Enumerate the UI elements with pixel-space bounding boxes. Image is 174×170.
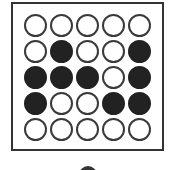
grid-cell bbox=[100, 90, 126, 116]
grid-cell bbox=[126, 116, 152, 142]
partial-circle-icon bbox=[79, 166, 97, 170]
grid-cell bbox=[126, 38, 152, 64]
empty-circle-icon bbox=[24, 14, 47, 37]
grid-cell bbox=[126, 64, 152, 90]
empty-circle-icon bbox=[76, 14, 99, 37]
grid-cell bbox=[22, 38, 48, 64]
grid-cell bbox=[100, 12, 126, 38]
filled-circle-icon bbox=[76, 66, 99, 89]
empty-circle-icon bbox=[102, 66, 125, 89]
grid-cell bbox=[48, 38, 74, 64]
grid-cell bbox=[48, 12, 74, 38]
grid-cell bbox=[22, 12, 48, 38]
empty-circle-icon bbox=[24, 118, 47, 141]
dot-grid bbox=[22, 12, 152, 142]
filled-circle-icon bbox=[24, 66, 47, 89]
empty-circle-icon bbox=[50, 118, 73, 141]
grid-cell bbox=[22, 116, 48, 142]
grid-cell bbox=[100, 64, 126, 90]
grid-cell bbox=[22, 90, 48, 116]
grid-cell bbox=[74, 38, 100, 64]
filled-circle-icon bbox=[24, 92, 47, 115]
empty-circle-icon bbox=[128, 14, 151, 37]
grid-cell bbox=[48, 64, 74, 90]
empty-circle-icon bbox=[128, 118, 151, 141]
grid-cell bbox=[126, 90, 152, 116]
grid-cell bbox=[74, 90, 100, 116]
grid-cell bbox=[22, 64, 48, 90]
dot-grid-frame bbox=[11, 2, 164, 151]
filled-circle-icon bbox=[128, 40, 151, 63]
filled-circle-icon bbox=[102, 92, 125, 115]
empty-circle-icon bbox=[50, 14, 73, 37]
grid-cell bbox=[74, 116, 100, 142]
empty-circle-icon bbox=[102, 14, 125, 37]
grid-cell bbox=[74, 64, 100, 90]
grid-cell bbox=[48, 116, 74, 142]
empty-circle-icon bbox=[24, 40, 47, 63]
filled-circle-icon bbox=[128, 92, 151, 115]
filled-circle-icon bbox=[50, 66, 73, 89]
empty-circle-icon bbox=[50, 92, 73, 115]
grid-cell bbox=[48, 90, 74, 116]
empty-circle-icon bbox=[76, 40, 99, 63]
filled-circle-icon bbox=[50, 40, 73, 63]
empty-circle-icon bbox=[76, 118, 99, 141]
empty-circle-icon bbox=[102, 118, 125, 141]
grid-cell bbox=[74, 12, 100, 38]
grid-cell bbox=[100, 38, 126, 64]
grid-cell bbox=[126, 12, 152, 38]
grid-cell bbox=[100, 116, 126, 142]
filled-circle-icon bbox=[128, 66, 151, 89]
empty-circle-icon bbox=[76, 92, 99, 115]
empty-circle-icon bbox=[102, 40, 125, 63]
